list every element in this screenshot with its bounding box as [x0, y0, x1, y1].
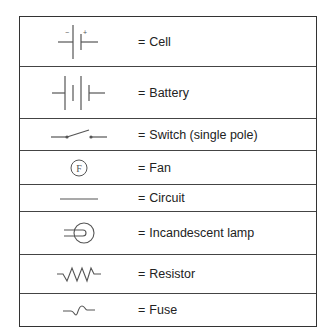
legend-row-lamp: =Incandescent lamp [20, 211, 316, 254]
legend-label: =Battery [138, 86, 189, 100]
legend-label: =Resistor [138, 267, 195, 281]
svg-text:+: + [83, 29, 87, 36]
legend-row-resistor: =Resistor [20, 254, 316, 293]
legend-row-circuit: =Circuit [20, 184, 316, 211]
legend-label: =Incandescent lamp [138, 226, 254, 240]
battery-icon [20, 67, 138, 118]
svg-text:F: F [76, 163, 82, 174]
fan-icon: F [20, 151, 138, 184]
svg-text:−: − [65, 29, 69, 36]
switch-icon [20, 119, 138, 150]
circuit-icon [20, 185, 138, 211]
symbol-legend-table: − + =Cell =Battery [19, 16, 317, 327]
legend-row-fan: F =Fan [20, 150, 316, 184]
legend-row-switch: =Switch (single pole) [20, 118, 316, 150]
resistor-icon [20, 255, 138, 293]
legend-label: =Fan [138, 161, 171, 175]
cell-icon: − + [20, 17, 138, 66]
legend-row-battery: =Battery [20, 66, 316, 118]
legend-label: =Switch (single pole) [138, 128, 258, 142]
legend-row-fuse: =Fuse [20, 293, 316, 326]
legend-row-cell: − + =Cell [20, 17, 316, 66]
legend-label: =Circuit [138, 191, 185, 205]
legend-label: =Cell [138, 35, 171, 49]
fuse-icon [20, 294, 138, 326]
lamp-icon [20, 212, 138, 254]
legend-label: =Fuse [138, 303, 177, 317]
